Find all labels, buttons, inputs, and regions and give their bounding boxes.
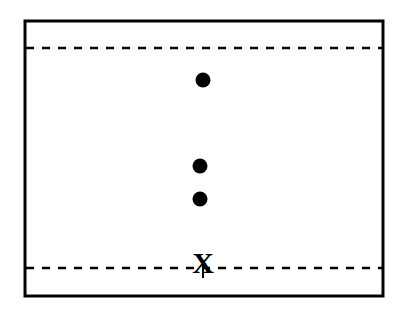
dot-2	[193, 159, 208, 174]
dot-3	[193, 192, 208, 207]
x-marker: X	[192, 246, 214, 279]
diagram-canvas: X	[0, 0, 402, 324]
dot-1	[196, 73, 211, 88]
